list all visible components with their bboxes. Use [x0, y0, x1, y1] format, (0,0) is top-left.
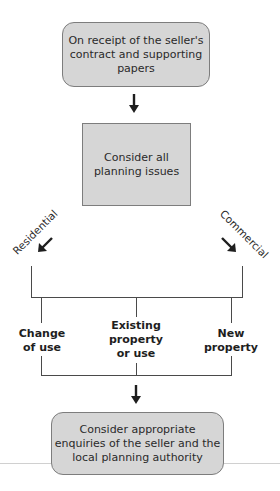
- bracket-bottom-horizontal: [41, 375, 232, 376]
- category-existing-line-3: or use: [104, 347, 168, 361]
- category-existing-line-1: Existing: [104, 319, 168, 333]
- end-box-line-2: enquiries of the seller and the: [55, 437, 221, 451]
- category-change-line-1: Change: [14, 327, 70, 341]
- lower-left-vertical: [41, 356, 42, 376]
- down-left-arrow-icon: [36, 236, 54, 254]
- bracket-right-vertical: [242, 266, 243, 298]
- category-change-line-2: of use: [14, 341, 70, 355]
- drop-new-property: [231, 297, 232, 323]
- bracket-left-vertical: [31, 266, 32, 298]
- down-arrow-icon: [131, 385, 141, 405]
- start-box-line-1: On receipt of the seller's: [68, 34, 203, 48]
- planning-box-text: Consider all planning issues: [94, 151, 179, 179]
- down-right-arrow-icon: [220, 236, 238, 254]
- start-box-text: On receipt of the seller's contract and …: [68, 34, 203, 76]
- end-box: Consider appropriate enquiries of the se…: [51, 412, 224, 475]
- category-change-of-use: Change of use: [14, 326, 70, 356]
- scan-artifact-line: [0, 463, 51, 464]
- start-box: On receipt of the seller's contract and …: [62, 22, 210, 87]
- planning-box: Consider all planning issues: [82, 123, 191, 206]
- start-box-line-3: papers: [68, 62, 203, 76]
- down-arrow-icon: [129, 94, 139, 114]
- planning-box-line-1: Consider all: [94, 151, 179, 165]
- planning-box-line-2: planning issues: [94, 165, 179, 179]
- end-box-line-1: Consider appropriate: [55, 423, 221, 437]
- drop-existing: [136, 297, 137, 317]
- scan-artifact-line: [224, 463, 280, 464]
- category-new-line-2: property: [200, 341, 262, 355]
- end-box-line-3: local planning authority: [55, 451, 221, 465]
- category-new-line-1: New: [200, 327, 262, 341]
- drop-change-of-use: [41, 297, 42, 323]
- category-existing-property: Existing property or use: [104, 318, 168, 362]
- end-box-text: Consider appropriate enquiries of the se…: [55, 423, 221, 465]
- category-existing-line-2: property: [104, 333, 168, 347]
- lower-right-vertical: [231, 356, 232, 376]
- start-box-line-2: contract and supporting: [68, 48, 203, 62]
- category-new-property: New property: [200, 326, 262, 356]
